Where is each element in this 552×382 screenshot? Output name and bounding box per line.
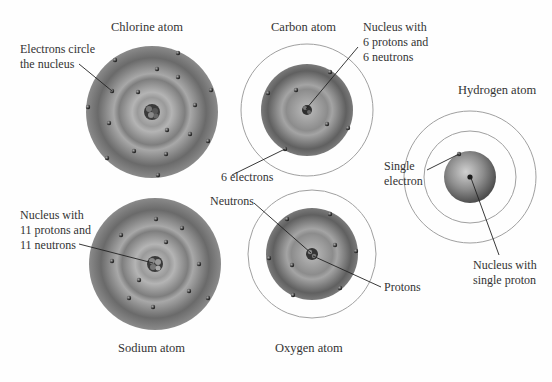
hydrogen-nucleus xyxy=(467,174,472,179)
hydrogen-title: Hydrogen atom xyxy=(458,83,536,98)
neutrons-callout: Neutrons xyxy=(210,194,254,209)
atom-diagram: Chlorine atom Carbon atom Hydrogen atom … xyxy=(0,0,552,382)
sodium-atom xyxy=(89,198,221,330)
chlorine-nucleus xyxy=(144,104,160,120)
carbon-electrons-callout: 6 electrons xyxy=(221,170,273,185)
carbon-nucleus-callout: Nucleus with 6 protons and 6 neutrons xyxy=(363,20,428,65)
carbon-atom xyxy=(241,44,373,176)
chlorine-atom xyxy=(86,46,218,178)
electrons-circle-callout: Electrons circle the nucleus xyxy=(20,42,95,72)
carbon-title: Carbon atom xyxy=(271,20,336,35)
sodium-title: Sodium atom xyxy=(118,341,185,356)
oxygen-atom xyxy=(248,190,376,318)
single-proton-callout: Nucleus with single proton xyxy=(473,258,537,288)
chlorine-title: Chlorine atom xyxy=(111,20,183,35)
hydrogen-atom xyxy=(404,111,536,243)
carbon-nucleus xyxy=(302,105,312,115)
protons-callout: Protons xyxy=(384,280,421,295)
sodium-nucleus-callout: Nucleus with 11 protons and 11 neutrons xyxy=(20,208,91,253)
single-electron-callout: Single electron xyxy=(384,159,423,189)
sodium-nucleus xyxy=(147,256,163,272)
oxygen-title: Oxygen atom xyxy=(275,341,343,356)
